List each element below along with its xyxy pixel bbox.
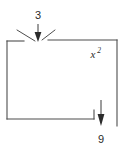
area-label-base: x xyxy=(90,48,96,60)
top-arrow-head-icon xyxy=(35,32,42,42)
top-leader-line-right xyxy=(42,30,55,40)
bottom-dimension-label: 9 xyxy=(98,133,104,145)
area-label-exponent: 2 xyxy=(97,46,101,55)
bottom-arrow-head-icon xyxy=(98,114,105,126)
geometry-figure: 3 x 2 9 xyxy=(0,0,125,158)
top-dimension-label: 3 xyxy=(35,9,41,21)
figure-canvas: 3 x 2 9 xyxy=(0,0,125,158)
top-leader-line-left xyxy=(17,30,35,41)
